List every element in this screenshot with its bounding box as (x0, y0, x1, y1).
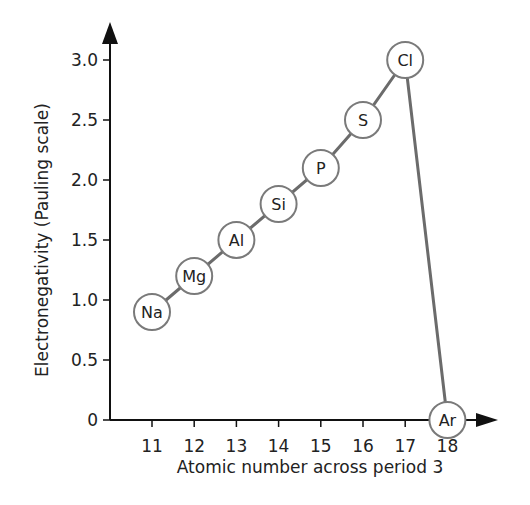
x-tick-label: 12 (183, 436, 205, 456)
point-label: Cl (397, 51, 413, 70)
y-tick-label: 2.5 (71, 110, 98, 130)
axes: 00.51.01.52.02.53.01112131415161718 (71, 22, 498, 456)
y-tick-label: 1.5 (71, 230, 98, 250)
x-tick-label: 15 (310, 436, 332, 456)
y-tick-label: 1.0 (71, 290, 98, 310)
data-point-s: S (345, 102, 381, 138)
series-line (152, 60, 447, 420)
x-tick-label: 14 (268, 436, 290, 456)
x-tick-label: 13 (226, 436, 248, 456)
data-point-cl: Cl (387, 42, 423, 78)
data-point-na: Na (134, 294, 170, 330)
data-point-ar: Ar (429, 402, 465, 438)
point-label: Mg (182, 267, 206, 286)
point-label: Al (229, 231, 244, 250)
x-tick-label: 16 (352, 436, 374, 456)
y-axis-arrow-icon (102, 22, 118, 44)
electronegativity-chart: 00.51.01.52.02.53.01112131415161718 NaMg… (0, 0, 530, 505)
data-points: NaMgAlSiPSClAr (134, 42, 465, 438)
y-tick-label: 0.5 (71, 350, 98, 370)
y-tick-label: 2.0 (71, 170, 98, 190)
x-tick-label: 11 (141, 436, 163, 456)
x-tick-label: 17 (394, 436, 416, 456)
y-tick-label: 3.0 (71, 50, 98, 70)
point-label: Si (271, 195, 286, 214)
data-point-mg: Mg (176, 258, 212, 294)
data-point-si: Si (261, 186, 297, 222)
point-label: Ar (439, 411, 457, 430)
point-label: Na (141, 303, 163, 322)
point-label: S (358, 111, 368, 130)
data-point-al: Al (218, 222, 254, 258)
y-axis-label: Electronegativity (Pauling scale) (32, 103, 52, 377)
point-label: P (316, 159, 326, 178)
chart-svg: 00.51.01.52.02.53.01112131415161718 NaMg… (0, 0, 530, 505)
series-polyline (152, 60, 447, 420)
y-tick-label: 0 (87, 410, 98, 430)
x-axis-arrow-icon (476, 413, 498, 427)
data-point-p: P (303, 150, 339, 186)
x-axis-label: Atomic number across period 3 (177, 457, 443, 477)
